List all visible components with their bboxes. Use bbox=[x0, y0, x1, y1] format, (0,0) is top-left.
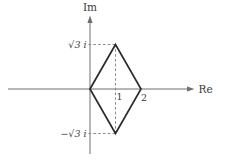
diagram-canvas: Im Re √3 i −√3 i 1 2 bbox=[0, 0, 225, 166]
real-axis-label: Re bbox=[199, 83, 213, 95]
negative-sqrt3i-label: −√3 i bbox=[60, 128, 86, 139]
imaginary-axis-label: Im bbox=[83, 1, 97, 13]
imaginary-axis-arrowhead-icon bbox=[87, 16, 92, 24]
tick-label-1: 1 bbox=[116, 91, 122, 102]
tick-label-2: 2 bbox=[141, 92, 147, 103]
real-axis-arrowhead-icon bbox=[187, 86, 195, 91]
sqrt3i-label: √3 i bbox=[68, 39, 86, 50]
complex-plane-figure: Im Re √3 i −√3 i 1 2 bbox=[0, 0, 225, 166]
